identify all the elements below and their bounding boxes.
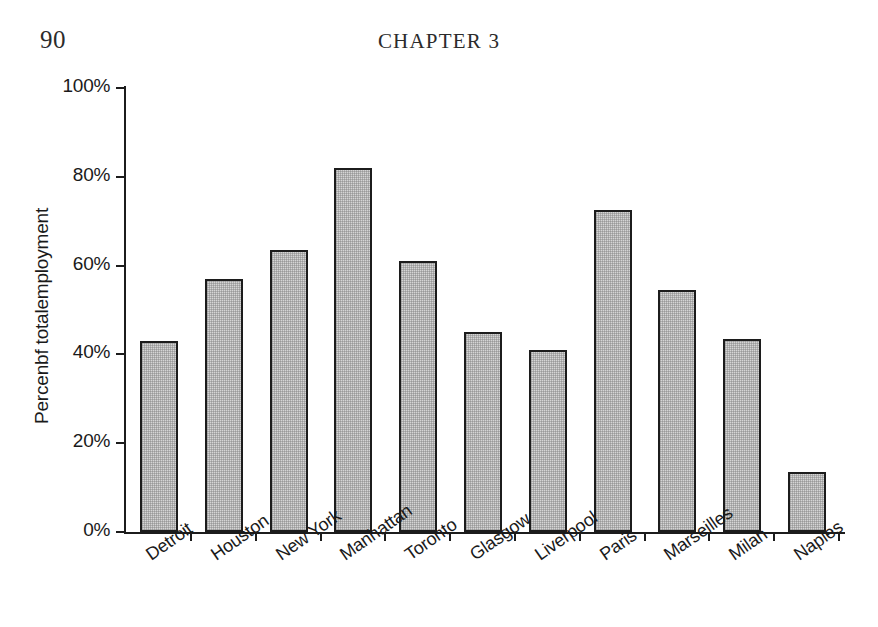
y-axis-tick-label: 60% [50, 253, 110, 275]
y-axis-line [124, 86, 126, 534]
bar [529, 350, 567, 532]
y-axis-tick-label: 0% [50, 519, 110, 541]
y-axis-tick-label: 20% [50, 430, 110, 452]
y-axis-tick-label: 40% [50, 341, 110, 363]
bar [205, 279, 243, 532]
bar [788, 472, 826, 532]
bar [464, 332, 502, 532]
y-axis-tick [116, 176, 124, 178]
bar [140, 341, 178, 532]
y-axis-tick [116, 531, 124, 533]
x-axis-tick [773, 534, 775, 541]
bar [723, 339, 761, 532]
y-axis-tick [116, 353, 124, 355]
bar [399, 261, 437, 532]
y-axis-title: Percenbf totalemployment [31, 201, 53, 431]
bar-chart: Percenbf totalemployment 100%80%60%40%20… [0, 0, 878, 627]
y-axis-tick [116, 265, 124, 267]
bar [334, 168, 372, 532]
y-axis-tick [116, 442, 124, 444]
bar [658, 290, 696, 532]
bar [270, 250, 308, 532]
bar [594, 210, 632, 532]
y-axis-tick-label: 100% [50, 75, 110, 97]
y-axis-tick-label: 80% [50, 164, 110, 186]
x-axis-tick [644, 534, 646, 541]
y-axis-tick [116, 87, 124, 89]
